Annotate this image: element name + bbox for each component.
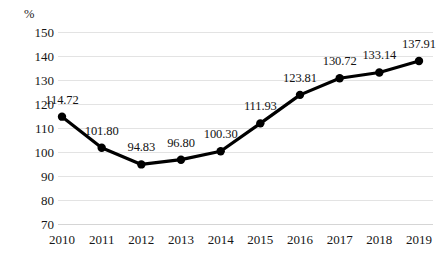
y-axis: 150140130120110100908070 bbox=[0, 0, 54, 258]
x-axis-tick-label: 2012 bbox=[128, 233, 154, 246]
x-axis-tick-label: 2013 bbox=[168, 233, 194, 246]
y-axis-tick-label: 80 bbox=[18, 194, 54, 207]
x-axis-tick-label: 2015 bbox=[247, 233, 273, 246]
y-axis-tick-label: 130 bbox=[18, 74, 54, 87]
x-axis-tick-label: 2016 bbox=[287, 233, 313, 246]
x-axis: 2010201120122013201420152016201720182019 bbox=[58, 0, 433, 258]
x-axis-tick-label: 2010 bbox=[49, 233, 75, 246]
y-axis-tick-label: 100 bbox=[18, 146, 54, 159]
y-axis-tick-label: 110 bbox=[18, 122, 54, 135]
y-axis-tick-label: 140 bbox=[18, 50, 54, 63]
x-axis-tick-label: 2011 bbox=[89, 233, 115, 246]
y-axis-tick-label: 70 bbox=[18, 218, 54, 231]
y-axis-tick-label: 150 bbox=[18, 26, 54, 39]
y-axis-tick-label: 90 bbox=[18, 170, 54, 183]
x-axis-tick-label: 2017 bbox=[327, 233, 353, 246]
x-axis-tick-label: 2019 bbox=[406, 233, 432, 246]
x-axis-tick-label: 2018 bbox=[366, 233, 392, 246]
x-axis-tick-label: 2014 bbox=[208, 233, 234, 246]
line-chart: % 150140130120110100908070 114.72101.809… bbox=[0, 0, 441, 258]
